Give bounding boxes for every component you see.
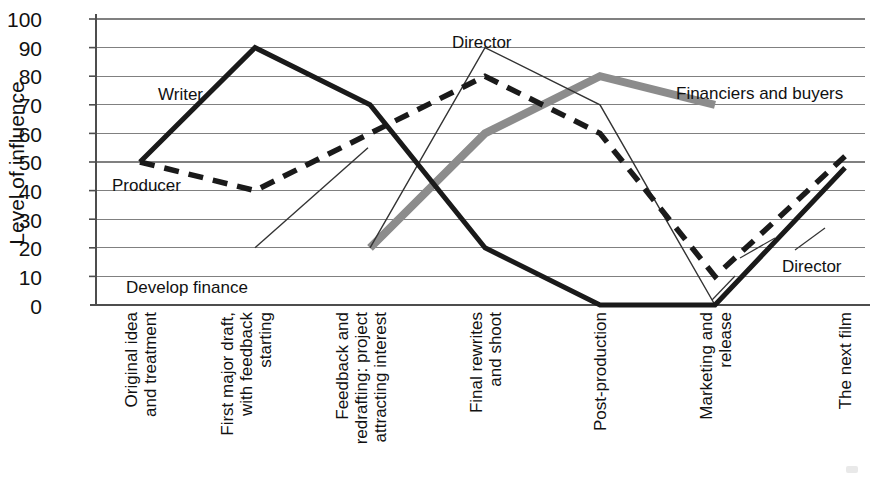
x-tick-line: and shoot	[486, 312, 505, 387]
x-tick-line: starting	[256, 312, 275, 368]
series-producer	[140, 76, 845, 276]
chart-figure: Level of influence 100 90 80 70 60 50 40…	[0, 0, 873, 483]
x-tick-line: First major draft,	[218, 312, 237, 436]
x-tick-line: Post-production	[591, 312, 610, 431]
x-tick-line: and treatment	[141, 312, 160, 417]
y-tick-marks	[89, 19, 96, 276]
leader-line-director-right-2	[795, 228, 825, 250]
annotation-writer: Writer	[158, 85, 203, 105]
x-tick-line: Marketing and	[697, 312, 716, 420]
x-tick-line: The next film	[836, 312, 855, 409]
x-tick-line: Original idea	[122, 312, 141, 407]
series-director	[370, 48, 715, 305]
scan-artifact	[846, 466, 858, 473]
annotation-develop-finance: Develop finance	[126, 278, 248, 298]
annotation-director-top: Director	[452, 33, 512, 53]
annotation-producer: Producer	[112, 176, 181, 196]
x-tick-line: with feedback	[237, 312, 256, 416]
x-tick-line: release	[716, 312, 735, 368]
annotation-financiers-and-buyers: Financiers and buyers	[676, 84, 843, 104]
chart-plot-area	[0, 0, 873, 483]
annotation-director-right: Director	[782, 257, 842, 277]
x-tick-line: Final rewrites	[467, 312, 486, 413]
x-tick-line: attracting interest	[371, 312, 390, 442]
x-tick-line: Feedback and	[333, 312, 352, 420]
x-tick-line: redrafting: project	[352, 312, 371, 444]
gridlines	[96, 19, 865, 276]
